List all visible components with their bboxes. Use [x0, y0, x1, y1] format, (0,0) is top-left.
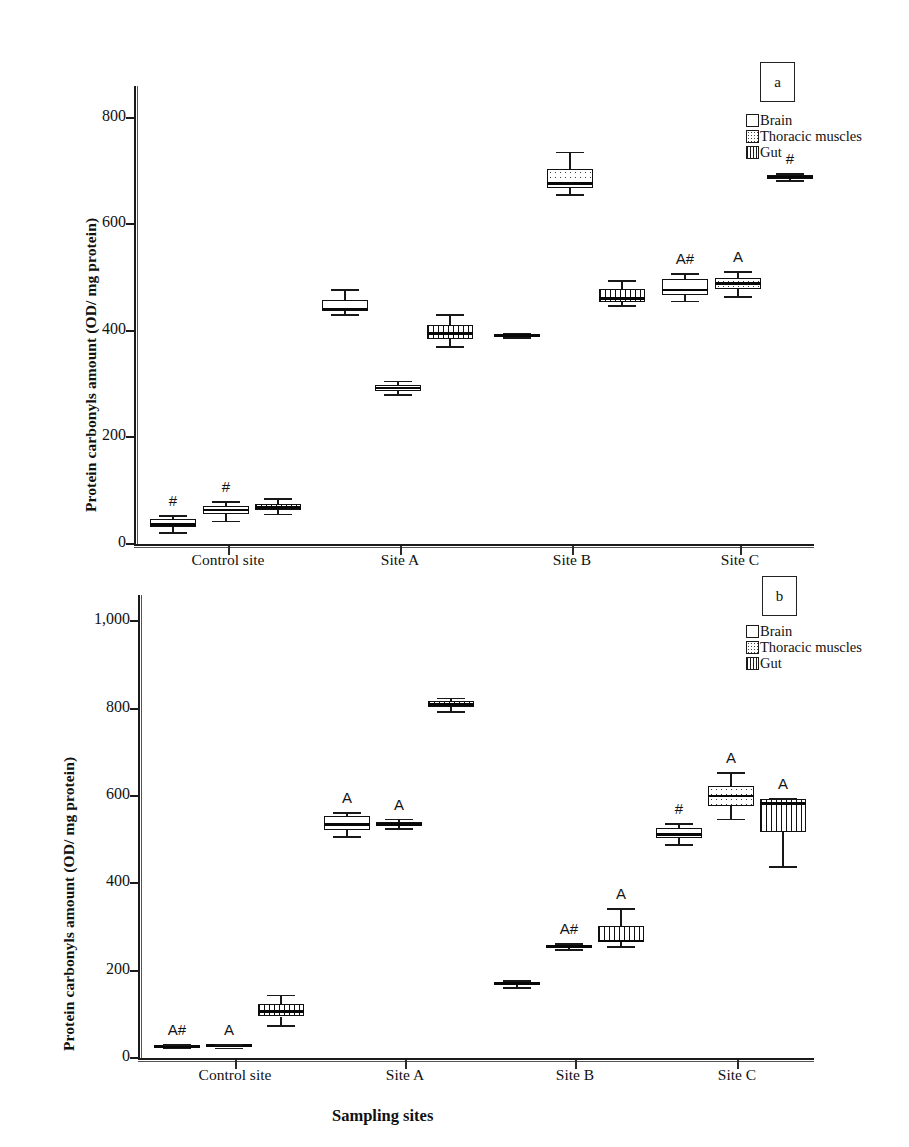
box-plot-median — [322, 308, 368, 311]
box-plot-cap — [556, 194, 584, 196]
x-tick-label: Site A — [335, 1066, 475, 1084]
box-plot-whisker — [569, 152, 571, 169]
significance-annotation: A — [758, 775, 808, 792]
box-plot-cap — [776, 173, 804, 175]
box-plot-cap — [724, 271, 752, 273]
box-plot-cap — [159, 515, 187, 517]
box-plot-cap — [333, 812, 361, 814]
y-tick — [126, 223, 134, 225]
box-plot-cap — [503, 980, 531, 982]
box-plot-median — [375, 387, 421, 390]
box-plot-cap — [503, 333, 531, 335]
box-plot-cap — [769, 798, 797, 800]
box-plot-median — [255, 506, 301, 509]
x-tick-label: Site C — [667, 1066, 807, 1084]
box-plot-cap — [159, 532, 187, 534]
box-plot-cap — [385, 828, 413, 830]
y-tick — [126, 436, 134, 438]
box-plot-cap — [215, 1044, 243, 1046]
box-plot-median — [662, 289, 708, 292]
y-tick-label: 800 — [68, 107, 126, 125]
y-tick-label: 200 — [68, 426, 126, 444]
x-tick-label: Site B — [505, 1066, 645, 1084]
box-plot-cap — [503, 337, 531, 339]
box-plot-cap — [671, 273, 699, 275]
box-plot-cap — [671, 301, 699, 303]
box-plot-whisker — [280, 1017, 282, 1025]
box-plot-whisker — [737, 289, 739, 296]
box-plot-cap — [264, 498, 292, 500]
box-plot-cap — [264, 514, 292, 516]
significance-annotation: # — [148, 492, 198, 509]
box-plot-cap — [607, 908, 635, 910]
box-plot-cap — [437, 698, 465, 700]
box-plot-cap — [769, 866, 797, 868]
y-tick-label: 200 — [60, 960, 130, 978]
box-plot-cap — [212, 501, 240, 503]
box-plot-median — [547, 182, 593, 185]
box-plot-cap — [665, 844, 693, 846]
box-plot-cap — [776, 180, 804, 182]
box-plot-cap — [267, 1025, 295, 1027]
box-plot-median — [203, 509, 249, 512]
box-plot-cap — [503, 987, 531, 989]
box-plot-cap — [724, 296, 752, 298]
y-tick — [126, 117, 134, 119]
box-plot-cap — [437, 711, 465, 713]
y-tick — [126, 543, 134, 545]
x-axis-label: Sampling sites — [332, 1106, 433, 1126]
box-plot-median — [428, 703, 474, 706]
y-tick — [130, 882, 138, 884]
box-plot-median — [760, 802, 806, 805]
x-tick-label: Site C — [670, 551, 810, 569]
box-plot-cap — [607, 946, 635, 948]
significance-annotation: A — [713, 248, 763, 265]
box-plot-box — [547, 169, 593, 189]
box-plot-cap — [333, 836, 361, 838]
significance-annotation: A# — [544, 920, 594, 937]
significance-annotation: # — [201, 478, 251, 495]
box-plot-cap — [556, 152, 584, 154]
box-plot-cap — [384, 381, 412, 383]
box-plot-cap — [555, 943, 583, 945]
box-plot-whisker — [730, 806, 732, 819]
y-tick-label: 0 — [68, 533, 126, 551]
y-tick-label: 1,000 — [60, 610, 130, 628]
y-tick-label: 600 — [60, 785, 130, 803]
plot-area-a: 0200400600800Control siteSite ASite BSit… — [0, 0, 909, 574]
box-plot-box — [662, 279, 708, 295]
significance-annotation: # — [765, 150, 815, 167]
y-tick — [126, 330, 134, 332]
y-tick-label: 400 — [68, 320, 126, 338]
y-tick-label: 0 — [60, 1047, 130, 1065]
x-tick-label: Control site — [158, 551, 298, 569]
box-plot-whisker — [730, 772, 732, 786]
box-plot-cap — [717, 819, 745, 821]
box-plot-median — [258, 1010, 304, 1013]
box-plot-median — [708, 795, 754, 798]
significance-annotation: # — [654, 800, 704, 817]
box-plot-cap — [555, 949, 583, 951]
y-tick — [130, 708, 138, 710]
significance-annotation: A — [706, 749, 756, 766]
box-plot-whisker — [782, 832, 784, 866]
box-plot-cap — [717, 772, 745, 774]
significance-annotation: A — [374, 796, 424, 813]
significance-annotation: A# — [152, 1021, 202, 1038]
significance-annotation: A — [204, 1021, 254, 1038]
plot-area-b: 02004006008001,000Control siteSite ASite… — [0, 573, 909, 1147]
chart-panel-b: Protein carbonyls amount (OD/ mg protein… — [0, 573, 909, 1147]
box-plot-cap — [385, 819, 413, 821]
significance-annotation: A — [322, 789, 372, 806]
box-plot-cap — [267, 995, 295, 997]
box-plot-whisker — [346, 830, 348, 837]
box-plot-cap — [436, 314, 464, 316]
y-tick-label: 800 — [60, 698, 130, 716]
box-plot-cap — [436, 346, 464, 348]
box-plot-cap — [163, 1048, 191, 1050]
x-tick-label: Control site — [165, 1066, 305, 1084]
box-plot-cap — [608, 305, 636, 307]
y-tick — [130, 620, 138, 622]
box-plot-cap — [163, 1044, 191, 1046]
box-plot-median — [427, 332, 473, 335]
